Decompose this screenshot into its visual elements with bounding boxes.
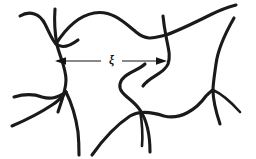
xi-symbol: ξ <box>109 54 115 67</box>
polymer-network-figure: ξ <box>0 0 256 159</box>
polymer-network-canvas: ξ <box>0 0 256 159</box>
